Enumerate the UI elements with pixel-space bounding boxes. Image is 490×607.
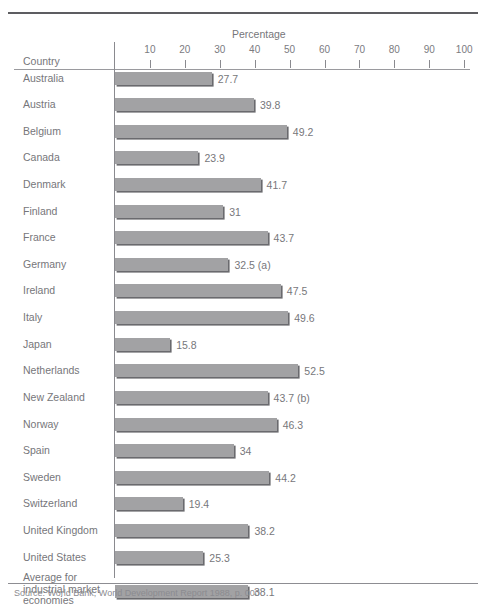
x-tick-label-40: 40 xyxy=(249,44,260,55)
bar-row: Spain34 xyxy=(0,444,490,471)
bar-row: Japan15.8 xyxy=(0,338,490,365)
x-tick-40 xyxy=(255,60,256,68)
row-label-japan: Japan xyxy=(23,339,52,351)
bar-value-label: 43.7 (b) xyxy=(274,392,310,404)
row-label-new-zealand: New Zealand xyxy=(23,392,85,404)
bar-row: Austria39.8 xyxy=(0,98,490,125)
row-label-netherlands: Netherlands xyxy=(23,365,80,377)
bar-value-label: 52.5 xyxy=(304,365,324,377)
row-label-ireland: Ireland xyxy=(23,285,55,297)
bar-row: France43.7 xyxy=(0,231,490,258)
x-tick-label-60: 60 xyxy=(319,44,330,55)
row-label-denmark: Denmark xyxy=(23,179,66,191)
bar-value-label: 34 xyxy=(240,445,252,457)
x-tick-30 xyxy=(220,60,221,68)
bar xyxy=(115,391,268,404)
bar-row: Belgium49.2 xyxy=(0,125,490,152)
bar-value-label: 47.5 xyxy=(287,285,307,297)
bar-row: Germany32.5 (a) xyxy=(0,258,490,285)
row-label-canada: Canada xyxy=(23,152,60,164)
bar xyxy=(115,364,298,377)
bar-row: Canada23.9 xyxy=(0,151,490,178)
bar xyxy=(115,338,170,351)
bar-row: Italy49.6 xyxy=(0,311,490,338)
x-tick-label-50: 50 xyxy=(284,44,295,55)
bar-row: United Kingdom38.2 xyxy=(0,524,490,551)
row-label-germany: Germany xyxy=(23,259,66,271)
row-label-finland: Finland xyxy=(23,206,57,218)
bar xyxy=(115,98,254,111)
bar-row: New Zealand43.7 (b) xyxy=(0,391,490,418)
bar-row: Australia27.7 xyxy=(0,72,490,99)
x-tick-80 xyxy=(394,60,395,68)
row-label-austria: Austria xyxy=(23,99,56,111)
bar xyxy=(115,524,248,537)
bar xyxy=(115,125,287,138)
x-tick-label-20: 20 xyxy=(179,44,190,55)
bar-value-label: 23.9 xyxy=(204,152,224,164)
row-label-france: France xyxy=(23,232,56,244)
bar-value-label: 44.2 xyxy=(275,472,295,484)
bar xyxy=(115,231,268,244)
row-label-belgium: Belgium xyxy=(23,126,61,138)
bar-row: Switzerland19.4 xyxy=(0,497,490,524)
bar xyxy=(115,178,261,191)
bar-value-label: 15.8 xyxy=(176,339,196,351)
bar-value-label: 43.7 xyxy=(274,232,294,244)
bar-row: Ireland47.5 xyxy=(0,284,490,311)
bar xyxy=(115,205,223,218)
row-label-switzerland: Switzerland xyxy=(23,498,77,510)
bar xyxy=(115,311,288,324)
row-label-sweden: Sweden xyxy=(23,472,61,484)
bar xyxy=(115,151,198,164)
x-tick-label-30: 30 xyxy=(214,44,225,55)
row-label-united-kingdom: United Kingdom xyxy=(23,525,98,537)
bar-value-label: 46.3 xyxy=(283,419,303,431)
row-label-spain: Spain xyxy=(23,445,50,457)
x-tick-90 xyxy=(429,60,430,68)
bar-row: Finland31 xyxy=(0,205,490,232)
bar-row: Sweden44.2 xyxy=(0,471,490,498)
row-label-australia: Australia xyxy=(23,73,64,85)
bar-value-label: 31 xyxy=(229,206,241,218)
bar-value-label: 49.2 xyxy=(293,126,313,138)
row-label-italy: Italy xyxy=(23,312,42,324)
bar xyxy=(115,72,212,85)
bar-row: Netherlands52.5 xyxy=(0,364,490,391)
bottom-rule xyxy=(8,583,478,584)
x-tick-20 xyxy=(185,60,186,68)
bar-value-label: 32.5 (a) xyxy=(234,259,270,271)
bar xyxy=(115,551,203,564)
x-tick-10 xyxy=(150,60,151,68)
x-tick-60 xyxy=(325,60,326,68)
bar-row: Norway46.3 xyxy=(0,418,490,445)
x-tick-label-80: 80 xyxy=(389,44,400,55)
bar-value-label: 49.6 xyxy=(294,312,314,324)
bar-value-label: 41.7 xyxy=(267,179,287,191)
bar-row: Denmark41.7 xyxy=(0,178,490,205)
bar-value-label: 39.8 xyxy=(260,99,280,111)
bar-value-label: 38.2 xyxy=(254,525,274,537)
x-tick-label-100: 100 xyxy=(456,44,473,55)
bar-value-label: 27.7 xyxy=(218,73,238,85)
x-tick-label-10: 10 xyxy=(144,44,155,55)
bar xyxy=(115,497,183,510)
bar-value-label: 19.4 xyxy=(189,498,209,510)
bar xyxy=(115,418,277,431)
bar xyxy=(115,284,281,297)
bar xyxy=(115,258,228,271)
row-label-united-states: United States xyxy=(23,552,86,564)
x-tick-70 xyxy=(359,60,360,68)
source-note: Source: World Bank, World Development Re… xyxy=(14,588,480,598)
x-tick-label-90: 90 xyxy=(424,44,435,55)
bar-value-label: 25.3 xyxy=(209,552,229,564)
x-tick-100 xyxy=(464,60,465,68)
x-tick-50 xyxy=(290,60,291,68)
x-tick-label-70: 70 xyxy=(354,44,365,55)
bar xyxy=(115,444,234,457)
bar xyxy=(115,471,269,484)
row-label-norway: Norway xyxy=(23,419,59,431)
